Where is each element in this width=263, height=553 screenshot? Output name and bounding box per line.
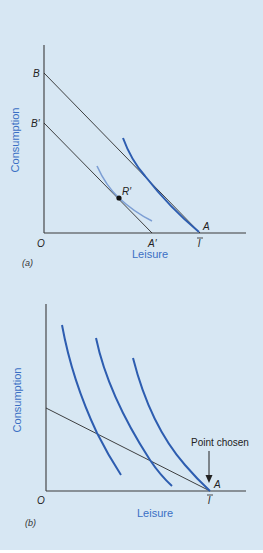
label-a: A xyxy=(213,479,221,490)
budget-line xyxy=(46,408,210,491)
point-r-prime xyxy=(116,195,121,200)
origin-label: O xyxy=(37,238,45,249)
x-axis-title: Leisure xyxy=(137,507,173,519)
label-a: A xyxy=(202,221,210,232)
label-b: B xyxy=(33,68,40,79)
x-axis-title: Leisure xyxy=(132,248,168,260)
origin-label: O xyxy=(37,495,45,506)
indifference-curve-1 xyxy=(62,325,121,475)
budget-line-BA xyxy=(44,73,200,233)
figure: B B′ R′ A O A′ l Leisure Consumption (a)… xyxy=(0,0,263,550)
label-r-prime: R′ xyxy=(122,186,132,197)
point-chosen-label: Point chosen xyxy=(191,437,249,448)
budget-line-BpAp xyxy=(44,123,152,233)
y-axis-title: Consumption xyxy=(9,108,21,173)
label-l-bar: l xyxy=(208,495,211,506)
arrow-down-icon xyxy=(206,475,213,483)
panel-b: Point chosen A O l Leisure Consumption (… xyxy=(0,275,263,550)
panel-tag-a: (a) xyxy=(22,258,33,268)
panel-tag-b: (b) xyxy=(25,518,36,528)
panel-a: B B′ R′ A O A′ l Leisure Consumption (a) xyxy=(0,0,263,275)
label-b-prime: B′ xyxy=(31,118,41,129)
indifference-curve-high xyxy=(123,138,199,232)
label-l-bar: l xyxy=(198,238,201,249)
y-axis-title: Consumption xyxy=(11,368,23,433)
